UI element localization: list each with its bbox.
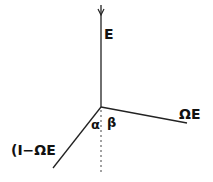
label-complement: (I−ΩE bbox=[11, 143, 56, 157]
label-e: E bbox=[104, 27, 114, 41]
label-beta: β bbox=[107, 116, 116, 129]
label-omega-e: ΩE bbox=[179, 107, 200, 121]
label-alpha: α bbox=[91, 118, 100, 131]
